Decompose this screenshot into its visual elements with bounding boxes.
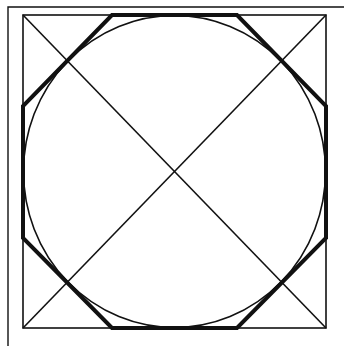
- geometry-diagram: [0, 0, 344, 346]
